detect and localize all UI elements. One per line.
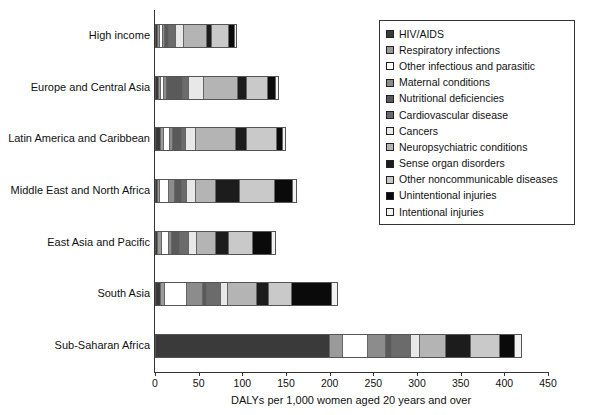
bar-segment <box>156 335 329 357</box>
bar-segment <box>168 25 175 47</box>
x-tick-label: 200 <box>321 378 339 389</box>
legend-swatch-icon <box>386 160 394 168</box>
legend-swatch-icon <box>386 46 394 54</box>
bar-segment <box>186 180 195 202</box>
bar-segment <box>282 128 285 150</box>
x-tick-label: 100 <box>234 378 252 389</box>
legend-label: Other noncommunicable diseases <box>399 174 558 185</box>
legend-item[interactable]: Unintentional injuries <box>386 188 568 204</box>
bar-segment <box>235 128 245 150</box>
x-tick-label: 400 <box>496 378 514 389</box>
x-tick <box>417 372 418 376</box>
bar-segment <box>175 25 183 47</box>
legend-label: Intentional injuries <box>399 207 484 218</box>
bar-segment <box>234 25 236 47</box>
x-tick-label: 300 <box>408 378 426 389</box>
legend-item[interactable]: Cardiovascular disease <box>386 107 568 123</box>
bar-segment <box>275 77 278 99</box>
bar-segment <box>159 180 168 202</box>
legend-label: Other infectious and parasitic <box>399 61 535 72</box>
x-tick-label: 50 <box>193 378 205 389</box>
legend-label: Neuropsychiatric conditions <box>399 142 527 153</box>
legend-item[interactable]: Other noncommunicable diseases <box>386 172 568 188</box>
legend-swatch-icon <box>386 62 394 70</box>
bar-segment <box>246 77 267 99</box>
x-tick <box>504 372 505 376</box>
bar-segment <box>215 232 228 254</box>
legend-item[interactable]: Cancers <box>386 123 568 139</box>
legend-swatch-icon <box>386 127 394 135</box>
stacked-bar[interactable] <box>155 231 276 255</box>
legend-label: Maternal conditions <box>399 77 490 88</box>
bar-segment <box>172 128 181 150</box>
bar-segment <box>237 77 246 99</box>
bar-segment <box>445 335 470 357</box>
legend-label: Cancers <box>399 126 438 137</box>
legend-swatch-icon <box>386 143 394 151</box>
legend-item[interactable]: Maternal conditions <box>386 75 568 91</box>
stacked-bar[interactable] <box>155 334 522 358</box>
bar-segment <box>267 77 275 99</box>
legend-item[interactable]: Respiratory infections <box>386 42 568 58</box>
bar-segment <box>252 232 272 254</box>
x-tick <box>330 372 331 376</box>
legend-item[interactable]: Sense organ disorders <box>386 156 568 172</box>
stacked-bar[interactable] <box>155 127 286 151</box>
bar-segment <box>268 283 291 305</box>
legend-item[interactable]: Intentional injuries <box>386 204 568 220</box>
bar-segment <box>188 77 202 99</box>
legend-label: Nutritional deficiencies <box>399 93 504 104</box>
legend-swatch-icon <box>386 111 394 119</box>
bar-segment <box>239 180 274 202</box>
x-tick-label: 0 <box>152 378 158 389</box>
chart-legend: HIV/AIDSRespiratory infectionsOther infe… <box>379 20 575 225</box>
x-tick-label: 350 <box>452 378 470 389</box>
x-tick <box>461 372 462 376</box>
bar-segment <box>331 283 338 305</box>
bar-segment <box>174 180 181 202</box>
x-tick <box>548 372 549 376</box>
legend-item[interactable]: Other infectious and parasitic <box>386 58 568 74</box>
bar-segment <box>186 283 202 305</box>
bar-segment <box>292 180 296 202</box>
legend-label: Respiratory infections <box>399 45 500 56</box>
bar-row <box>155 334 548 358</box>
bar-segment <box>227 283 256 305</box>
bar-segment <box>228 232 252 254</box>
bar-segment <box>195 180 216 202</box>
bar-segment <box>211 25 228 47</box>
category-axis-labels: High incomeEurope and Central AsiaLatin … <box>0 0 150 372</box>
category-label: South Asia <box>97 288 150 299</box>
bar-segment <box>470 335 499 357</box>
bar-segment <box>220 283 227 305</box>
legend-label: Unintentional injuries <box>399 190 496 201</box>
stacked-bar[interactable] <box>155 24 237 48</box>
legend-swatch-icon <box>386 95 394 103</box>
legend-swatch-icon <box>386 30 394 38</box>
bar-segment <box>215 180 238 202</box>
category-label: Middle East and North Africa <box>11 185 150 196</box>
legend-item[interactable]: Neuropsychiatric conditions <box>386 139 568 155</box>
bar-segment <box>329 335 343 357</box>
stacked-bar[interactable] <box>155 282 338 306</box>
stacked-bar-chart: High incomeEurope and Central AsiaLatin … <box>0 0 590 415</box>
category-label: East Asia and Pacific <box>47 237 150 248</box>
legend-swatch-icon <box>386 192 394 200</box>
x-tick-label: 150 <box>277 378 295 389</box>
legend-item[interactable]: Nutritional deficiencies <box>386 91 568 107</box>
bar-segment <box>188 232 197 254</box>
bar-segment <box>291 283 331 305</box>
stacked-bar[interactable] <box>155 76 279 100</box>
x-tick-label: 450 <box>539 378 557 389</box>
category-label: Latin America and Caribbean <box>8 133 150 144</box>
bar-segment <box>256 283 268 305</box>
x-tick <box>199 372 200 376</box>
x-tick-label: 250 <box>365 378 383 389</box>
x-axis-line <box>154 372 548 373</box>
stacked-bar[interactable] <box>155 179 297 203</box>
bar-segment <box>499 335 514 357</box>
x-tick <box>286 372 287 376</box>
bar-segment <box>391 335 411 357</box>
bar-segment <box>271 232 274 254</box>
legend-item[interactable]: HIV/AIDS <box>386 26 568 42</box>
